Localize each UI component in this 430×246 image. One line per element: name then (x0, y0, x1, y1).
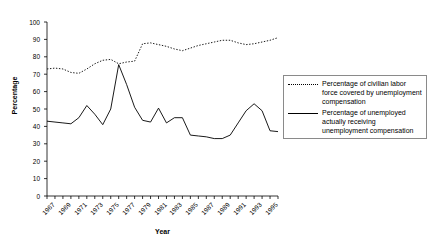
dotted-line-swatch-icon (286, 79, 319, 90)
y-tick-50: 50 (20, 106, 40, 113)
legend-item-covered: Percentage of civilian labor force cover… (286, 79, 423, 106)
series-line-receiving (47, 65, 278, 139)
y-tick-70: 70 (20, 71, 40, 78)
y-tick-80: 80 (20, 53, 40, 60)
chart-legend: Percentage of civilian labor force cover… (283, 75, 427, 139)
series-line-covered (47, 38, 278, 74)
y-tick-40: 40 (20, 123, 40, 130)
y-tick-0: 0 (20, 193, 40, 200)
legend-item-receiving: Percentage of unemployed actually receiv… (286, 108, 423, 135)
y-tick-60: 60 (20, 88, 40, 95)
y-tick-90: 90 (20, 36, 40, 43)
solid-line-swatch-icon (286, 108, 319, 119)
y-tick-20: 20 (20, 158, 40, 165)
y-axis-title: Percentage (11, 56, 18, 136)
legend-label-covered: Percentage of civilian labor force cover… (322, 79, 423, 106)
axis-lines (47, 22, 278, 196)
axis-tick-marks (44, 22, 278, 199)
x-axis-title: Year (47, 228, 278, 235)
legend-label-receiving: Percentage of unemployed actually receiv… (322, 108, 423, 135)
y-tick-10: 10 (20, 175, 40, 182)
chart-container: Percentage Year 0102030405060708090100 1… (0, 0, 430, 246)
data-series-group (47, 38, 278, 139)
y-tick-30: 30 (20, 140, 40, 147)
y-tick-100: 100 (20, 19, 40, 26)
